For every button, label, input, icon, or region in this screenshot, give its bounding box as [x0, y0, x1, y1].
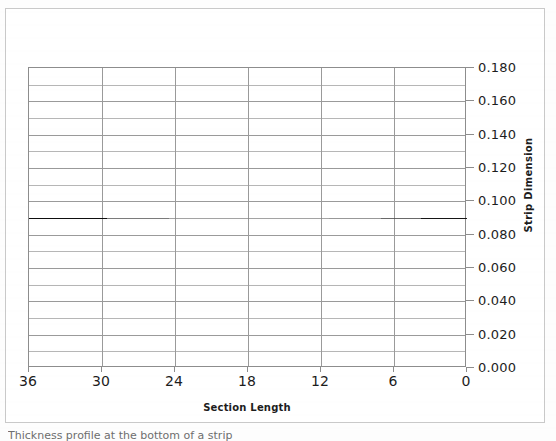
gridline-horizontal — [29, 168, 465, 169]
y-axis-tick-label: 0.100 — [478, 194, 516, 207]
gridline-vertical — [394, 68, 395, 366]
gridline-vertical — [248, 68, 249, 366]
gridline-horizontal — [29, 268, 465, 269]
plot-area — [28, 67, 466, 367]
x-axis-tick-label: 18 — [238, 374, 256, 388]
x-axis-tick-mark — [393, 367, 394, 372]
y-axis-tick-label: 0.140 — [478, 127, 516, 140]
gridline-horizontal — [29, 351, 465, 352]
x-axis-title: Section Length — [28, 402, 466, 413]
x-axis-tick-mark — [174, 367, 175, 372]
chart: 0.1800.1600.1400.1200.1000.0800.0600.040… — [0, 0, 556, 441]
gridline-horizontal — [29, 318, 465, 319]
y-axis-title: Strip Dimension — [523, 138, 534, 233]
y-axis-tick-mark — [466, 100, 474, 101]
y-axis-tick-mark — [466, 200, 474, 201]
gridline-horizontal — [29, 285, 465, 286]
x-axis-tick-mark — [466, 367, 467, 372]
figure-caption-clipped: Thickness profile at the bottom of a str… — [8, 431, 308, 441]
y-axis-tick-label: 0.180 — [478, 61, 516, 74]
gridline-horizontal — [29, 185, 465, 186]
gridline-vertical — [102, 68, 103, 366]
gridline-horizontal — [29, 201, 465, 202]
x-axis-tick-label: 36 — [19, 374, 37, 388]
x-axis-tick-mark — [28, 367, 29, 372]
x-axis-tick-label: 24 — [165, 374, 183, 388]
gridline-horizontal — [29, 301, 465, 302]
gridline-horizontal — [29, 135, 465, 136]
y-axis-tick-mark — [466, 367, 474, 368]
y-axis-tick-label: 0.060 — [478, 261, 516, 274]
x-axis-tick-label: 0 — [462, 374, 471, 388]
x-axis-tick-mark — [247, 367, 248, 372]
y-axis-tick-mark — [466, 167, 474, 168]
x-axis-tick-label: 6 — [389, 374, 398, 388]
x-axis-tick-label: 30 — [92, 374, 110, 388]
y-axis-tick-label: 0.020 — [478, 327, 516, 340]
x-axis-tick-label: 12 — [311, 374, 329, 388]
gridline-vertical — [175, 68, 176, 366]
scanned-page-background: 0.1800.1600.1400.1200.1000.0800.0600.040… — [0, 0, 556, 441]
gridline-horizontal — [29, 235, 465, 236]
gridline-horizontal — [29, 218, 465, 219]
gridline-horizontal — [29, 118, 465, 119]
gridline-horizontal — [29, 335, 465, 336]
x-axis-tick-mark — [320, 367, 321, 372]
gridline-horizontal — [29, 85, 465, 86]
y-axis-tick-mark — [466, 134, 474, 135]
gridline-vertical — [321, 68, 322, 366]
y-axis-tick-mark — [466, 267, 474, 268]
y-axis-tick-label: 0.040 — [478, 294, 516, 307]
x-axis-tick-mark — [101, 367, 102, 372]
y-axis-tick-mark — [466, 334, 474, 335]
figure-caption-text: Thickness profile at the bottom of a str… — [8, 431, 232, 441]
gridline-horizontal — [29, 101, 465, 102]
y-axis-tick-mark — [466, 67, 474, 68]
gridline-horizontal — [29, 151, 465, 152]
y-axis-tick-label: 0.000 — [478, 361, 516, 374]
y-axis-tick-label: 0.080 — [478, 227, 516, 240]
y-axis-tick-mark — [466, 300, 474, 301]
y-axis-tick-mark — [466, 234, 474, 235]
y-axis-tick-label: 0.160 — [478, 94, 516, 107]
y-axis-tick-label: 0.120 — [478, 161, 516, 174]
gridline-horizontal — [29, 251, 465, 252]
